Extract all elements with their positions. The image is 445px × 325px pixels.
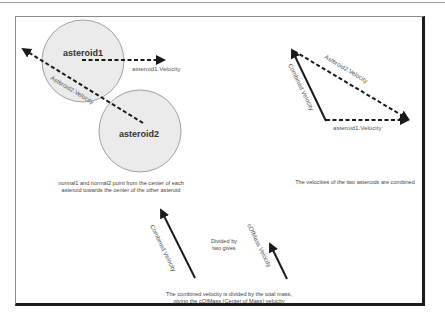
asteroid2-label: asteroid2 [119,129,159,139]
collision-caption-line2: asteroid towards the center of the other… [62,187,181,193]
divided-by-line1: Divided by [211,238,237,244]
asteroid1-velocity-label-right: asteroid1.Velocity [333,124,382,131]
divide-caption-line2: giving the cOfMass (Center of Mass) velo… [174,298,285,304]
cofmass-velocity-label: cOfMass Velocity [246,222,273,269]
collision-caption-line1: normal1 and normal2 point from the cente… [58,180,184,186]
panel-collision: asteroid1 asteroid2 asteroid1.Velocity A… [23,20,184,193]
asteroid2-velocity-label-right: Asteroid2.Velocity [323,53,370,85]
asteroid1-label: asteroid1 [63,48,103,58]
divide-caption-line1: The combined velocity is divided by the … [166,291,292,297]
combined-velocity-label-bottom: Combined Velocity [149,223,178,273]
combine-caption: The velocities of the two asteroids are … [295,179,415,185]
panel-combine: Asteroid2.Velocity Combined Velocity ast… [287,50,415,185]
divided-by-line2: two gives [212,245,236,251]
panel-divide: Combined Velocity Divided by two gives c… [149,210,292,304]
diagram-canvas: asteroid1 asteroid2 asteroid1.Velocity A… [0,0,445,325]
asteroid1-velocity-label: asteroid1.Velocity [132,65,181,72]
